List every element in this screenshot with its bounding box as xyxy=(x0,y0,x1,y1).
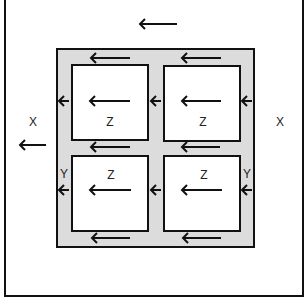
left-arrow-icon xyxy=(91,142,130,152)
arrow-layer xyxy=(0,0,305,304)
left-arrow-icon xyxy=(182,142,220,152)
left-arrow-icon xyxy=(140,19,177,29)
left-arrow-icon xyxy=(242,96,252,106)
left-arrow-icon xyxy=(183,233,221,243)
left-arrow-icon xyxy=(151,96,161,106)
left-arrow-icon xyxy=(59,185,69,195)
left-arrow-icon xyxy=(92,233,130,243)
left-arrow-icon xyxy=(182,185,222,195)
left-arrow-icon xyxy=(182,96,221,106)
left-arrow-icon xyxy=(90,96,130,106)
left-arrow-icon xyxy=(182,53,221,63)
left-arrow-icon xyxy=(151,185,161,195)
left-arrow-icon xyxy=(242,185,252,195)
left-arrow-icon xyxy=(20,140,46,150)
left-arrow-icon xyxy=(59,96,69,106)
left-arrow-icon xyxy=(91,53,130,63)
left-arrow-icon xyxy=(90,185,131,195)
